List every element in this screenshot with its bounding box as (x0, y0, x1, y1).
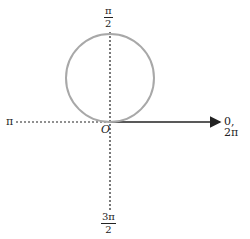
numerator: π (104, 6, 113, 16)
label-origin: O (101, 124, 110, 135)
label-pi-over-2: π 2 (104, 6, 113, 29)
label-0-2pi: 0, 2π (224, 116, 250, 138)
polar-diagram (0, 0, 250, 239)
denominator: 2 (104, 19, 112, 29)
denominator: 2 (104, 225, 112, 235)
label-pi: π (6, 116, 13, 127)
numerator: 3π (101, 212, 116, 222)
label-3pi-over-2: 3π 2 (101, 212, 116, 235)
